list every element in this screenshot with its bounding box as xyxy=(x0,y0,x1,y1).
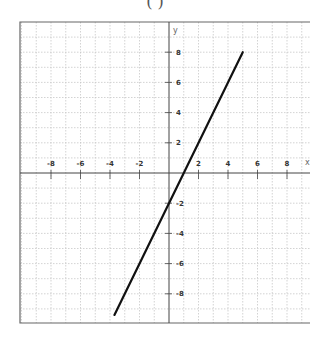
x-tick-label: 2 xyxy=(196,160,201,168)
x-tick-label: 8 xyxy=(285,160,290,168)
series-line xyxy=(114,52,242,315)
y-tick-label: -6 xyxy=(176,260,184,268)
data-series xyxy=(114,52,242,315)
y-tick-label: 4 xyxy=(176,109,181,117)
y-tick-label: 8 xyxy=(176,49,181,57)
y-tick-label: -8 xyxy=(176,290,184,298)
x-tick-label: 6 xyxy=(255,160,260,168)
x-tick-label: -4 xyxy=(106,160,114,168)
y-axis-label: y xyxy=(173,26,178,35)
x-axis-label: x xyxy=(305,158,310,167)
y-tick-label: 6 xyxy=(176,79,181,87)
y-tick-label: -4 xyxy=(176,230,184,238)
y-tick-label: -2 xyxy=(176,200,184,208)
x-tick-label: -8 xyxy=(47,160,55,168)
tick-labels: -8-6-4-224688642-2-4-6-8xy xyxy=(47,26,310,298)
x-tick-label: 4 xyxy=(226,160,231,168)
y-tick-label: 2 xyxy=(176,139,181,147)
x-tick-label: -6 xyxy=(77,160,85,168)
x-tick-label: -2 xyxy=(136,160,144,168)
line-chart: -8-6-4-224688642-2-4-6-8xy xyxy=(0,0,310,341)
